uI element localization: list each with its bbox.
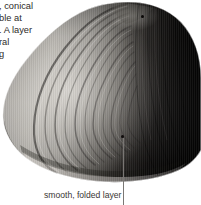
body-text-line: ble at [0,12,52,24]
body-text-line: ral [0,36,52,48]
body-text-line: . A layer [0,24,52,36]
body-text-line: g [0,48,52,60]
callout-dot-umbo [141,15,144,18]
caption-smooth-folded-layer: smooth, folded layer [44,190,121,201]
figure-page: , conical ble at . A layer ral g smooth,… [0,0,201,205]
clipped-body-paragraph: , conical ble at . A layer ral g [0,0,52,60]
body-text-line: , conical [0,0,52,12]
callout-dot-folded-layer [121,135,124,138]
leader-line-folded-layer [123,138,124,205]
